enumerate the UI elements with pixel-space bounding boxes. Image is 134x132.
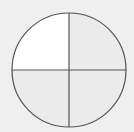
fraction-circle-diagram xyxy=(0,0,134,132)
